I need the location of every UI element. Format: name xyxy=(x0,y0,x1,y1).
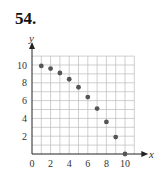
data-point xyxy=(58,71,63,76)
tick-labels: 0246810246810 xyxy=(17,60,130,170)
data-points xyxy=(39,63,128,156)
y-tick-label: 8 xyxy=(22,77,27,88)
data-point xyxy=(95,106,100,111)
grid-lines xyxy=(32,56,134,154)
scatter-chart: 0246810246810 x y xyxy=(0,0,164,180)
data-point xyxy=(123,152,128,157)
x-tick-label: 6 xyxy=(85,158,90,169)
data-point xyxy=(85,95,90,100)
x-tick-label: 10 xyxy=(120,158,130,169)
x-tick-label: 8 xyxy=(104,158,109,169)
x-axis-arrow-icon xyxy=(141,151,148,157)
data-point xyxy=(104,120,109,125)
data-point xyxy=(67,77,72,82)
data-point xyxy=(113,135,118,140)
y-tick-label: 6 xyxy=(22,95,27,106)
x-tick-label: 2 xyxy=(48,158,53,169)
y-tick-label: 10 xyxy=(17,60,27,71)
y-tick-label: 4 xyxy=(22,113,27,124)
x-tick-label: 0 xyxy=(30,158,35,169)
x-axis-label: x xyxy=(148,148,154,160)
data-point xyxy=(39,63,44,68)
y-tick-label: 2 xyxy=(22,131,27,142)
y-axis-label: y xyxy=(28,32,34,44)
data-point xyxy=(76,85,81,90)
data-point xyxy=(48,66,53,71)
x-tick-label: 4 xyxy=(67,158,72,169)
axes xyxy=(29,42,148,157)
